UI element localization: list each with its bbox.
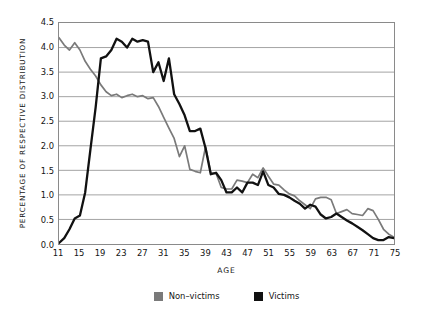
x-axis-tick: 11 [53,248,64,258]
legend-item[interactable]: Non–victims [154,291,220,301]
x-axis-tick: 47 [242,248,253,258]
x-axis-tick: 63 [326,248,337,258]
plot-svg [59,23,394,244]
x-axis-title: AGE [58,266,395,275]
x-axis-tick-labels: 1115192327313539434751555963677175 [58,248,395,262]
series-line-victims [59,39,394,243]
legend-label: Non–victims [169,291,220,301]
y-axis-tick: 1.0 [24,190,54,200]
x-axis-tick: 35 [179,248,190,258]
legend-swatch-nonvictims [154,292,163,301]
legend-label: Victims [269,291,300,301]
x-axis-tick: 43 [221,248,232,258]
gridlines [59,48,394,220]
x-axis-tick: 23 [116,248,127,258]
x-axis-tick: 59 [305,248,316,258]
series-lines [59,38,394,243]
x-axis-tick: 15 [74,248,85,258]
x-axis-tick: 31 [158,248,169,258]
x-axis-tick: 51 [263,248,274,258]
y-axis-tick-labels: 0.00.51.01.52.02.53.03.54.04.5 [20,22,54,245]
x-axis-tick: 71 [369,248,380,258]
y-axis-tick: 0.5 [24,215,54,225]
y-axis-tick: 4.0 [24,42,54,52]
x-axis-tick: 39 [200,248,211,258]
plot-area [58,22,395,245]
y-axis-tick: 3.0 [24,91,54,101]
y-axis-tick: 2.0 [24,141,54,151]
y-axis-tick: 2.5 [24,116,54,126]
x-axis-tick: 55 [284,248,295,258]
x-axis-tick: 19 [95,248,106,258]
series-line-non-victims [59,38,394,237]
x-axis-tick: 27 [137,248,148,258]
legend-item[interactable]: Victims [254,291,300,301]
x-axis-tick: 67 [348,248,359,258]
y-axis-tick: 0.0 [24,240,54,250]
x-axis-tick: 75 [390,248,401,258]
y-axis-tick: 1.5 [24,166,54,176]
y-axis-tick: 3.5 [24,67,54,77]
legend-swatch-victims [254,292,263,301]
chart-legend: Non–victimsVictims [58,288,395,304]
chart-container: PERCENTAGE OF RESPECTIVE DISTRIBUTION 0.… [0,0,421,321]
y-axis-tick: 4.5 [24,17,54,27]
